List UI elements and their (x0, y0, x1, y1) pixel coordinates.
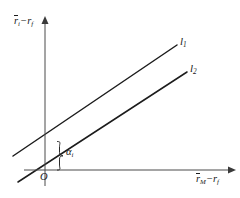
excess-return-diagram: ri−rf rM−rf l1 l2 αi O (0, 0, 240, 198)
y-axis-label-var: r (14, 16, 18, 27)
line-label-l2-sub: 2 (193, 68, 197, 76)
alpha-label: αi (66, 147, 73, 159)
y-axis-arrow-icon (42, 16, 49, 24)
alpha-subscript: i (72, 151, 74, 158)
line-label-l1: l1 (180, 36, 187, 49)
x-axis-label-minus: − (206, 173, 213, 184)
x-axis-label-var: r (196, 174, 200, 185)
x-axis-label-sub2: f (217, 178, 219, 185)
x-axis-label: rM−rf (196, 174, 219, 186)
origin-label: O (40, 172, 48, 183)
line-label-l2: l2 (190, 63, 197, 76)
x-axis-arrow-icon (228, 167, 236, 174)
y-axis-label: ri−rf (14, 16, 33, 28)
regression-line-l1 (13, 45, 177, 156)
y-axis-label-sub2: f (31, 20, 33, 27)
line-label-l1-sub: 1 (183, 41, 187, 49)
diagram-canvas (0, 0, 240, 198)
market-line-l2 (18, 72, 187, 182)
